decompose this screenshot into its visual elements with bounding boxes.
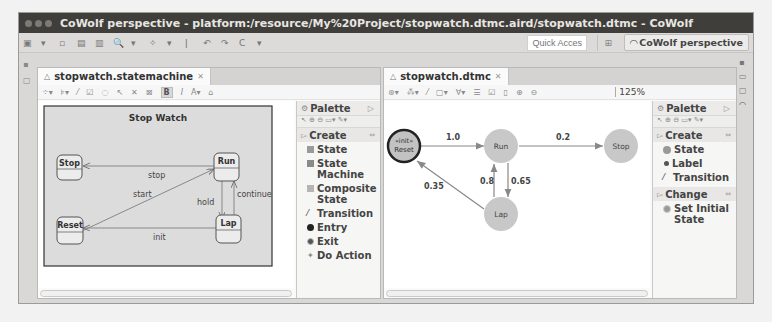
fill-color-icon[interactable]: ⌂: [208, 88, 213, 97]
minimize-window-button[interactable]: [35, 20, 42, 27]
select-icon[interactable]: ☑: [86, 88, 93, 97]
tab-stopwatch-statemachine[interactable]: △ stopwatch.statemachine ✕: [38, 68, 211, 85]
marquee-tool-icon[interactable]: ▭▾: [325, 116, 335, 124]
cowolf-view-icon[interactable]: ◠: [739, 100, 748, 109]
zoom-out-tool-icon[interactable]: ⊖: [317, 116, 323, 124]
save-icon[interactable]: ▫: [59, 38, 68, 47]
hide-icon[interactable]: ⊠: [146, 88, 153, 97]
zoom-in-icon[interactable]: ⊕: [516, 88, 523, 97]
palette-item-exit[interactable]: Exit: [297, 234, 380, 248]
pin-icon[interactable]: ⇔: [725, 190, 731, 198]
collapse-palette-icon[interactable]: ▷: [724, 104, 730, 113]
palette-header[interactable]: ⚙ Palette ▷: [653, 101, 736, 116]
forward-icon[interactable]: ↷: [221, 38, 230, 47]
delete-icon[interactable]: ✕: [131, 88, 138, 97]
state-stop[interactable]: Stop: [57, 155, 82, 180]
select-tool-icon[interactable]: ↖: [657, 116, 663, 124]
state-reset[interactable]: Reset: [57, 217, 83, 244]
zoom-out-icon[interactable]: ⊖: [531, 88, 538, 97]
filter-icon[interactable]: ◌: [101, 88, 108, 97]
palette-item-do-action[interactable]: ✦ Do Action: [297, 248, 380, 262]
properties-icon[interactable]: ▢: [739, 86, 748, 95]
diagram-canvas[interactable]: 1.0 0.2 0.65 0.8 0.35 «init» Reset Run S: [384, 101, 650, 288]
pin-icon[interactable]: ⁄: [427, 88, 428, 97]
search-icon[interactable]: 🔍: [113, 38, 122, 47]
zoom-in-tool-icon[interactable]: ⊕: [309, 116, 315, 124]
state-run[interactable]: Run: [214, 153, 239, 181]
dropdown-icon[interactable]: ▾: [167, 38, 176, 47]
dtmc-state-stop[interactable]: Stop: [604, 129, 638, 163]
marquee-tool-icon[interactable]: ▭▾: [681, 116, 691, 124]
close-tab-icon[interactable]: ✕: [495, 72, 502, 81]
palette-item-state[interactable]: State: [653, 142, 736, 156]
pin-icon[interactable]: ⇔: [725, 131, 731, 139]
back-icon[interactable]: ↶: [203, 38, 212, 47]
bold-button[interactable]: B: [161, 87, 173, 98]
zoom-in-tool-icon[interactable]: ⊕: [665, 116, 671, 124]
align-icon[interactable]: ⊧▾: [61, 88, 69, 97]
diagram-canvas[interactable]: Stop Watch stop start hold continue init…: [38, 101, 294, 288]
page-icon[interactable]: ▢▾: [436, 88, 448, 97]
font-color-icon[interactable]: A▾: [191, 88, 201, 97]
note-tool-icon[interactable]: ✎▾: [338, 116, 347, 124]
svg-text:Run: Run: [494, 142, 509, 151]
collapse-palette-icon[interactable]: ▷: [368, 104, 374, 113]
copy-format-icon[interactable]: ▯: [504, 88, 508, 97]
dtmc-state-reset[interactable]: «init» Reset: [388, 130, 420, 162]
restore-icon[interactable]: ▪: [23, 60, 31, 68]
quick-access-input[interactable]: [527, 35, 587, 51]
palette-item-composite-state[interactable]: Composite State: [297, 181, 380, 206]
dropdown-icon[interactable]: ▾: [131, 38, 140, 47]
palette-item-transition[interactable]: ⁄ Transition: [297, 206, 380, 220]
zoom-out-tool-icon[interactable]: ⊖: [673, 116, 679, 124]
close-tab-icon[interactable]: ✕: [197, 72, 204, 81]
palette-tools: ↖ ⊕ ⊖ ▭▾ ✎▾: [297, 116, 380, 128]
validate-icon[interactable]: ∀▾: [456, 88, 466, 97]
run-icon[interactable]: ✧: [149, 38, 158, 47]
navigate-icon[interactable]: ǀ: [185, 38, 194, 47]
select-all-icon[interactable]: ☰: [473, 88, 480, 97]
open-perspective-icon[interactable]: ⊞: [604, 38, 612, 48]
palette-item-state-machine[interactable]: State Machine: [297, 156, 380, 181]
italic-button[interactable]: I: [181, 88, 183, 97]
horizontal-scrollbar[interactable]: [386, 290, 648, 297]
tab-stopwatch-dtmc[interactable]: △ stopwatch.dtmc ✕: [384, 68, 509, 85]
refresh-icon[interactable]: C: [239, 38, 248, 47]
pin-icon[interactable]: ⇔: [369, 131, 375, 139]
outline-icon[interactable]: ▭: [739, 72, 748, 81]
print-icon[interactable]: ▥: [95, 38, 104, 47]
separator: [597, 35, 598, 51]
select-icon[interactable]: ☑: [488, 88, 495, 97]
arrange-icon[interactable]: ⁘▾: [42, 88, 53, 97]
transition-label-init: init: [153, 233, 166, 242]
close-window-button[interactable]: [25, 20, 32, 27]
zoom-level[interactable]: 125%: [615, 87, 648, 97]
palette-item-state[interactable]: State: [297, 142, 380, 156]
cowolf-perspective-button[interactable]: ◠ CoWolf perspective: [624, 34, 749, 51]
new-file-icon[interactable]: ▣: [23, 38, 32, 47]
horizontal-scrollbar[interactable]: [40, 290, 292, 297]
dtmc-state-lap[interactable]: Lap: [484, 197, 518, 231]
filters-icon[interactable]: ⁂▾: [407, 88, 419, 97]
pointer-icon[interactable]: ↖: [116, 88, 123, 97]
palette-item-transition[interactable]: ⁄ Transition: [653, 170, 736, 184]
palette-item-label[interactable]: Label: [653, 156, 736, 170]
select-tool-icon[interactable]: ↖: [301, 116, 307, 124]
pin-icon[interactable]: ⁄: [77, 88, 78, 97]
save-all-icon[interactable]: ▤: [77, 38, 86, 47]
state-lap[interactable]: Lap: [216, 215, 241, 243]
palette-drawer-change[interactable]: ▻ Change ⇔: [653, 187, 736, 201]
maximize-window-button[interactable]: [45, 20, 52, 27]
layers-icon[interactable]: ⊛▾: [388, 88, 399, 97]
restore-icon[interactable]: ▪: [739, 58, 748, 67]
note-tool-icon[interactable]: ✎▾: [694, 116, 703, 124]
palette-item-entry[interactable]: Entry: [297, 220, 380, 234]
project-explorer-icon[interactable]: ▢: [23, 76, 31, 84]
dropdown-icon[interactable]: ▾: [257, 38, 266, 47]
palette-item-set-initial-state[interactable]: Set Initial State: [653, 201, 736, 226]
palette-drawer-create[interactable]: ▻ Create ⇔: [653, 128, 736, 142]
dropdown-icon[interactable]: ▾: [41, 38, 50, 47]
dtmc-state-run[interactable]: Run: [484, 129, 518, 163]
palette-drawer-create[interactable]: ▻ Create ⇔: [297, 128, 380, 142]
palette-header[interactable]: ⚙ Palette ▷: [297, 101, 380, 116]
